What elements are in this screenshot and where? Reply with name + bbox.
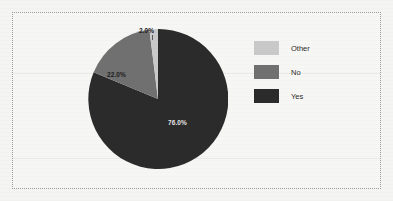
legend-swatch-other [254,41,279,55]
pie-label-yes: 76.0% [168,119,187,126]
other-label-leader-line [152,35,153,40]
pie-label-other: 2.0% [139,27,154,34]
legend-label-yes: Yes [291,92,303,101]
pie-label-no: 22.0% [107,71,126,78]
chart-legend: Other No Yes [254,36,344,108]
pie-svg [88,29,228,169]
legend-item-no[interactable]: No [254,60,344,84]
legend-swatch-yes [254,89,279,103]
legend-swatch-no [254,65,279,79]
legend-item-yes[interactable]: Yes [254,84,344,108]
pie-chart: 2.0% 22.0% 76.0% Other No Yes [0,0,393,201]
legend-label-no: No [291,68,301,77]
legend-label-other: Other [291,44,310,53]
legend-item-other[interactable]: Other [254,36,344,60]
